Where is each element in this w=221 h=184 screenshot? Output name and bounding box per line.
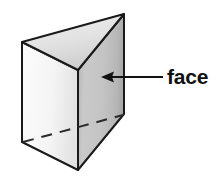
figure-canvas: face [0, 0, 221, 184]
triangular-prism-figure [0, 0, 221, 184]
face-label: face [167, 66, 208, 87]
